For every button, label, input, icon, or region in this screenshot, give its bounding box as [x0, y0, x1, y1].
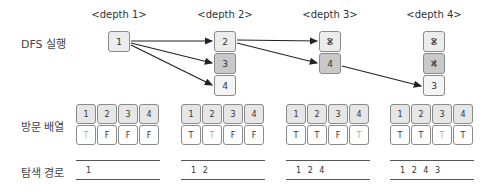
visited-index: 1 [181, 104, 201, 124]
visited-array-depth-1: 1 2 3 4 T F F F [76, 104, 159, 145]
visited-index: 3 [223, 104, 243, 124]
visited-value: F [97, 125, 117, 145]
visited-index: 3 [328, 104, 348, 124]
visited-index: 1 [286, 104, 306, 124]
visited-index: 2 [202, 104, 222, 124]
visited-value: T [307, 125, 327, 145]
search-path-depth-3: 1 2 4 [286, 160, 370, 180]
visited-array-depth-3: 1 2 3 4 T T F T [286, 104, 369, 145]
visited-value: T [202, 125, 222, 145]
visited-value: T [286, 125, 306, 145]
node-d1-1: 1 [108, 31, 130, 52]
node-d3-2-crossed: 2 [319, 31, 341, 52]
search-path-depth-1: 1 [76, 160, 160, 180]
visited-index: 2 [97, 104, 117, 124]
visited-value: T [76, 125, 96, 145]
search-path-depth-4: 1 2 4 3 [390, 160, 474, 180]
visited-index: 4 [349, 104, 369, 124]
visited-value: T [181, 125, 201, 145]
visited-value: T [390, 125, 410, 145]
visited-value: F [118, 125, 138, 145]
visited-index: 3 [118, 104, 138, 124]
edge-1-3 [131, 43, 212, 63]
visited-value: F [223, 125, 243, 145]
visited-value: F [244, 125, 264, 145]
visited-index: 2 [411, 104, 431, 124]
search-path-depth-2: 1 2 [181, 160, 265, 180]
visited-value: T [432, 125, 452, 145]
node-d4-2-crossed: 2 [423, 31, 445, 52]
edge-1-4 [131, 45, 212, 85]
edge-2-4 [237, 43, 317, 63]
visited-index: 4 [139, 104, 159, 124]
node-d4-3: 3 [423, 75, 445, 96]
visited-value: T [349, 125, 369, 145]
node-d2-2: 2 [214, 31, 236, 52]
visited-index: 1 [76, 104, 96, 124]
visited-index: 3 [432, 104, 452, 124]
visited-value: F [139, 125, 159, 145]
visited-value: F [328, 125, 348, 145]
node-d4-4-crossed: 4 [423, 53, 445, 74]
visited-value: T [453, 125, 473, 145]
visited-index: 2 [307, 104, 327, 124]
visited-index: 4 [244, 104, 264, 124]
edge-4-3 [342, 66, 421, 86]
node-d2-4: 4 [214, 75, 236, 96]
visited-array-depth-4: 1 2 3 4 T T T T [390, 104, 473, 145]
edge-2-2 [237, 40, 317, 41]
visited-array-depth-2: 1 2 3 4 T T F F [181, 104, 264, 145]
node-d3-4: 4 [319, 53, 341, 74]
visited-index: 4 [453, 104, 473, 124]
visited-index: 1 [390, 104, 410, 124]
node-d2-3: 3 [214, 53, 236, 74]
visited-value: T [411, 125, 431, 145]
